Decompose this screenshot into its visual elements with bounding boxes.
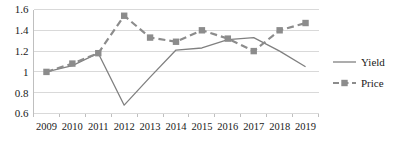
y-tick-label-0.6: 0.6 — [15, 107, 29, 119]
y-tick-label-1.6: 1.6 — [15, 3, 29, 15]
x-axis-tick-labels: 2009201020112012201320142015201620172018… — [34, 114, 319, 132]
data-point-price-2018 — [276, 27, 282, 33]
data-point-price-2011 — [95, 50, 101, 56]
data-point-price-2014 — [173, 39, 179, 45]
legend-marker-price — [341, 80, 347, 86]
data-point-price-2015 — [199, 27, 205, 33]
y-axis-tick-labels: 0.60.811.21.41.6 — [15, 3, 29, 119]
line-chart: 0.60.811.21.41.6200920102011201220132014… — [0, 0, 394, 141]
x-tick-label-2019: 2019 — [295, 121, 316, 132]
x-tick-label-2011: 2011 — [88, 121, 109, 132]
series-price — [43, 13, 308, 76]
y-tick-label-1: 1 — [23, 66, 29, 78]
data-point-price-2012 — [121, 13, 127, 19]
series-line-yield — [46, 38, 305, 106]
legend-label-yield: Yield — [361, 56, 385, 68]
data-point-price-2016 — [225, 35, 231, 41]
series-yield — [46, 38, 305, 106]
chart-container: 0.60.811.21.41.6200920102011201220132014… — [0, 0, 394, 141]
x-tick-label-2016: 2016 — [217, 121, 238, 132]
y-tick-label-0.8: 0.8 — [15, 87, 29, 99]
x-tick-label-2015: 2015 — [191, 121, 212, 132]
data-point-price-2009 — [43, 69, 49, 75]
x-tick-label-2014: 2014 — [166, 121, 188, 132]
data-point-price-2013 — [147, 34, 153, 40]
x-tick-label-2009: 2009 — [36, 121, 57, 132]
x-tick-label-2013: 2013 — [140, 121, 161, 132]
data-point-price-2017 — [251, 48, 257, 54]
x-tick-label-2017: 2017 — [243, 121, 264, 132]
gridlines — [34, 10, 319, 114]
x-tick-label-2018: 2018 — [269, 121, 290, 132]
x-tick-label-2010: 2010 — [62, 121, 83, 132]
data-point-price-2019 — [302, 20, 308, 26]
y-tick-label-1.4: 1.4 — [15, 24, 29, 36]
legend-label-price: Price — [361, 77, 384, 89]
y-tick-label-1.2: 1.2 — [15, 45, 29, 57]
x-tick-label-2012: 2012 — [114, 121, 135, 132]
data-point-price-2010 — [69, 60, 75, 66]
chart-legend: YieldPrice — [333, 56, 385, 89]
